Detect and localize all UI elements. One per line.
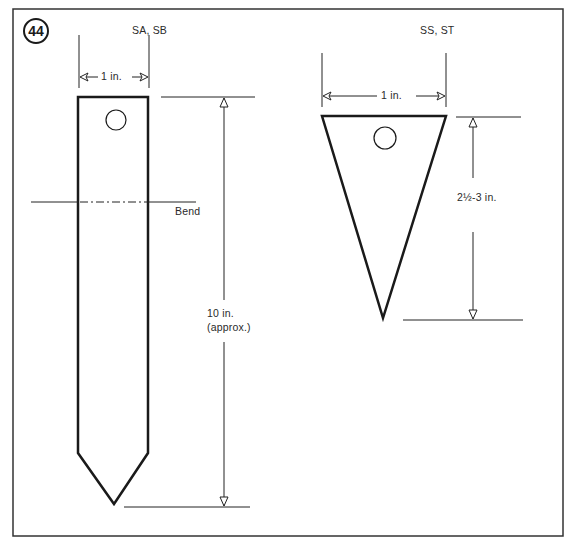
short-stake-models-label: SS, ST — [420, 24, 454, 36]
long-stake-hole — [106, 110, 126, 130]
figure-44-diagram: 44 SA, SB 1 in. Bend 10 in. (approx.) SS… — [0, 0, 576, 547]
bend-label: Bend — [175, 205, 200, 217]
long-stake — [78, 97, 148, 504]
figure-frame — [13, 9, 563, 536]
short-stake-length-dimension — [403, 117, 523, 320]
long-stake-width-label: 1 in. — [101, 70, 122, 82]
long-stake-length-dimension — [124, 97, 255, 507]
short-stake-hole — [374, 127, 396, 149]
short-stake — [322, 116, 446, 318]
short-stake-outline — [322, 116, 446, 318]
short-stake-length-label: 2½-3 in. — [457, 191, 497, 203]
long-stake-length-label-2: (approx.) — [207, 321, 251, 333]
short-stake-width-label: 1 in. — [381, 89, 402, 101]
long-stake-models-label: SA, SB — [132, 24, 167, 36]
figure-number-badge: 44 — [23, 18, 49, 44]
long-stake-outline — [78, 97, 148, 504]
long-stake-length-label-1: 10 in. — [207, 307, 234, 319]
